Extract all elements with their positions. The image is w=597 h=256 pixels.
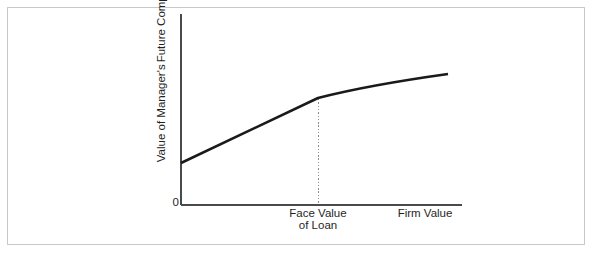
y-axis-origin-tick: 0 — [167, 196, 179, 208]
compensation-curve — [181, 74, 448, 163]
x-tick-label-face-value-line1: Face Value — [289, 207, 346, 219]
y-axis-label: Value of Manager's Future Compensation — [146, 0, 176, 132]
figure-container: Value of Manager's Future Compensation 0… — [0, 0, 597, 256]
y-axis-label-line1: Value of Manager's — [155, 64, 168, 162]
x-axis-label-firm-value: Firm Value — [380, 207, 470, 219]
y-axis-label-line2: Future Compensation — [155, 0, 168, 62]
x-tick-label-face-value-line2: of Loan — [268, 219, 368, 231]
x-tick-label-face-value: Face Value of Loan — [268, 207, 368, 231]
